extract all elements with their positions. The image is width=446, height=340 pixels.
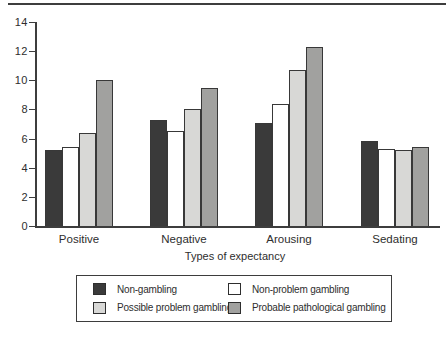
y-axis-line	[35, 22, 37, 228]
bar-group-sedating	[361, 141, 429, 226]
legend-swatch	[93, 302, 106, 314]
figure: 02468101214 PositiveNegativeArousingSeda…	[0, 0, 446, 340]
legend-box: Non-gamblingNon-problem gamblingPossible…	[76, 275, 392, 322]
y-tick-mark	[29, 22, 35, 23]
legend-swatch	[93, 283, 106, 295]
bar	[150, 120, 167, 226]
bar-group-negative	[150, 88, 218, 226]
y-tick-label: 14	[0, 17, 28, 28]
y-tick-mark	[29, 51, 35, 52]
bar	[395, 150, 412, 226]
legend-item: Non-gambling	[93, 283, 228, 295]
y-tick-mark	[29, 197, 35, 198]
legend-swatch	[228, 283, 241, 295]
x-category-label: Positive	[39, 233, 119, 245]
bar	[201, 88, 218, 226]
bar-group-positive	[45, 80, 113, 226]
bar	[96, 80, 113, 226]
y-tick-label: 4	[0, 163, 28, 174]
legend-label: Probable pathological gambling	[252, 302, 386, 313]
y-tick-mark	[29, 80, 35, 81]
y-tick-label: 12	[0, 46, 28, 57]
bar-chart: 02468101214 PositiveNegativeArousingSeda…	[0, 0, 446, 268]
y-tick-mark	[29, 109, 35, 110]
legend-item: Non-problem gambling	[228, 283, 391, 295]
bar-group-arousing	[255, 47, 323, 226]
x-axis-line	[35, 226, 440, 228]
x-category-label: Sedating	[355, 233, 435, 245]
bar	[79, 133, 96, 226]
x-category-label: Negative	[144, 233, 224, 245]
y-tick-label: 0	[0, 221, 28, 232]
y-tick-label: 6	[0, 134, 28, 145]
y-tick-label: 2	[0, 192, 28, 203]
legend-item: Possible problem gambling	[93, 302, 228, 314]
bar	[412, 147, 429, 226]
legend-label: Possible problem gambling	[117, 302, 232, 313]
x-category-label: Arousing	[249, 233, 329, 245]
bar	[62, 147, 79, 226]
bar	[184, 109, 201, 226]
bar	[167, 131, 184, 226]
y-tick-label: 10	[0, 75, 28, 86]
y-tick-mark	[29, 168, 35, 169]
bar	[361, 141, 378, 226]
bar	[378, 149, 395, 226]
x-axis-title: Types of expectancy	[35, 250, 435, 262]
legend-label: Non-problem gambling	[252, 284, 349, 295]
bar	[306, 47, 323, 226]
legend-item: Probable pathological gambling	[228, 302, 391, 314]
bar	[255, 123, 272, 226]
legend-label: Non-gambling	[117, 284, 177, 295]
bar	[272, 104, 289, 226]
y-tick-mark	[29, 139, 35, 140]
legend-swatch	[228, 302, 241, 314]
bar	[45, 150, 62, 226]
bar	[289, 70, 306, 226]
y-tick-label: 8	[0, 104, 28, 115]
